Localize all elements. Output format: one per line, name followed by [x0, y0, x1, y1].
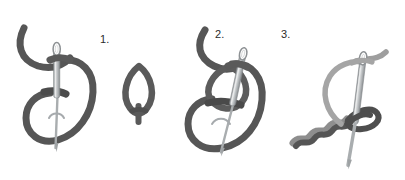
figure-step-1 [20, 28, 93, 152]
diagram-canvas: 1. [0, 0, 405, 180]
thread-over-needle-3 [352, 61, 372, 63]
embroidery-diagram-svg: 1. [0, 0, 405, 180]
thread-front-cross-1 [50, 58, 70, 60]
loop-detail [125, 66, 151, 122]
step-1-label: 1. [100, 33, 110, 45]
step-3-label: 3. [281, 28, 291, 40]
thread-front-cross-2 [228, 64, 247, 67]
figure-step-2 [188, 30, 262, 157]
figure-step-3 [293, 51, 386, 170]
step-2-label: 2. [215, 28, 225, 40]
